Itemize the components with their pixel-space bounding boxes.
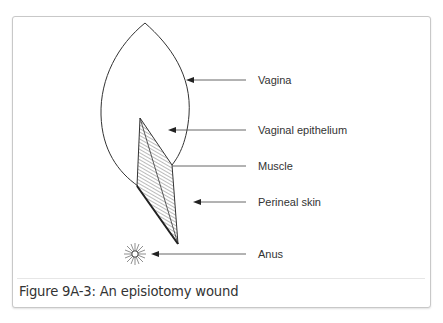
label-vaginal-epithelium: Vaginal epithelium [258, 124, 347, 136]
anus-icon [124, 243, 146, 265]
leader-vaginal-epithelium [168, 127, 246, 133]
leader-anus [151, 251, 246, 257]
label-vagina: Vagina [258, 74, 292, 86]
wound-wedge [137, 118, 178, 244]
leader-perineal-skin [193, 199, 246, 205]
episiotomy-diagram: Vagina Vaginal epithelium Muscle Perinea… [0, 0, 443, 323]
label-muscle: Muscle [258, 160, 293, 172]
leader-vagina [186, 77, 246, 83]
label-anus: Anus [258, 248, 284, 260]
label-perineal-skin: Perineal skin [258, 196, 321, 208]
figure-caption: Figure 9A-3: An episiotomy wound [19, 284, 238, 299]
caption-divider [17, 278, 425, 279]
